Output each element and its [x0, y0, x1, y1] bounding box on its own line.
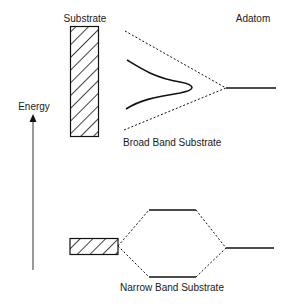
narrow-band-section: Narrow Band Substrate — [70, 210, 274, 293]
dotted-link-3 — [196, 210, 226, 248]
arrow-up-icon — [30, 114, 37, 122]
narrow-band-caption: Narrow Band Substrate — [120, 282, 224, 293]
upper-dotted-line — [125, 31, 226, 88]
dotted-link-2 — [118, 246, 149, 277]
broadened-density-curve — [126, 60, 192, 109]
energy-level-diagram: Energy Substrate Adatom Broad Band Subst… — [0, 0, 288, 308]
adatom-label: Adatom — [236, 13, 270, 24]
broad-band-caption: Broad Band Substrate — [123, 137, 222, 148]
broad-substrate-band — [71, 27, 99, 137]
substrate-label: Substrate — [64, 13, 107, 24]
energy-axis: Energy — [18, 101, 50, 270]
energy-label: Energy — [18, 101, 50, 112]
broad-band-section: Broad Band Substrate — [71, 27, 277, 149]
dotted-link-4 — [196, 248, 226, 277]
narrow-substrate-band — [70, 239, 118, 255]
dotted-link-1 — [118, 210, 149, 246]
